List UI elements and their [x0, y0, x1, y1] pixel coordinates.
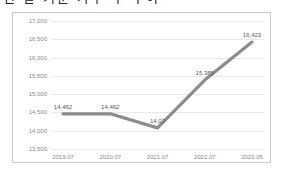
y-axis-tick-label: 14,000 — [29, 128, 47, 134]
y-axis-tick-label: 14,500 — [29, 109, 47, 115]
x-axis-tick-label: 2019.07 — [52, 154, 74, 160]
x-axis-tick-label: 2023.05 — [241, 154, 263, 160]
data-point-label: 15,385 — [196, 70, 214, 76]
y-axis-tick-label: 16,500 — [29, 36, 47, 42]
chart-frame: 17,00016,50016,00015,50015,00014,50014,0… — [12, 12, 271, 163]
line-series — [51, 21, 264, 149]
y-axis-tick-label: 15,500 — [29, 73, 47, 79]
x-axis-tick-label: 2020.07 — [99, 154, 121, 160]
page-title: 년 말 기준 가구 수 추이 — [3, 0, 160, 5]
y-axis-tick-label: 15,000 — [29, 91, 47, 97]
y-axis-tick-label: 16,000 — [29, 55, 47, 61]
chart-title-strip: 년 말 기준 가구 수 추이 — [0, 0, 283, 9]
plot-area: 17,00016,50016,00015,50015,00014,50014,0… — [51, 21, 264, 149]
y-axis-tick-label: 17,000 — [29, 18, 47, 24]
data-point-label: 14,07 — [150, 118, 165, 124]
gridline — [51, 149, 264, 150]
x-axis-tick-label: 2021.07 — [147, 154, 169, 160]
x-axis-tick-label: 2022.07 — [194, 154, 216, 160]
data-point-label: 14,462 — [101, 104, 119, 110]
y-axis-tick-label: 13,500 — [29, 146, 47, 152]
data-point-label: 14,462 — [54, 104, 72, 110]
data-point-label: 16,423 — [243, 32, 261, 38]
